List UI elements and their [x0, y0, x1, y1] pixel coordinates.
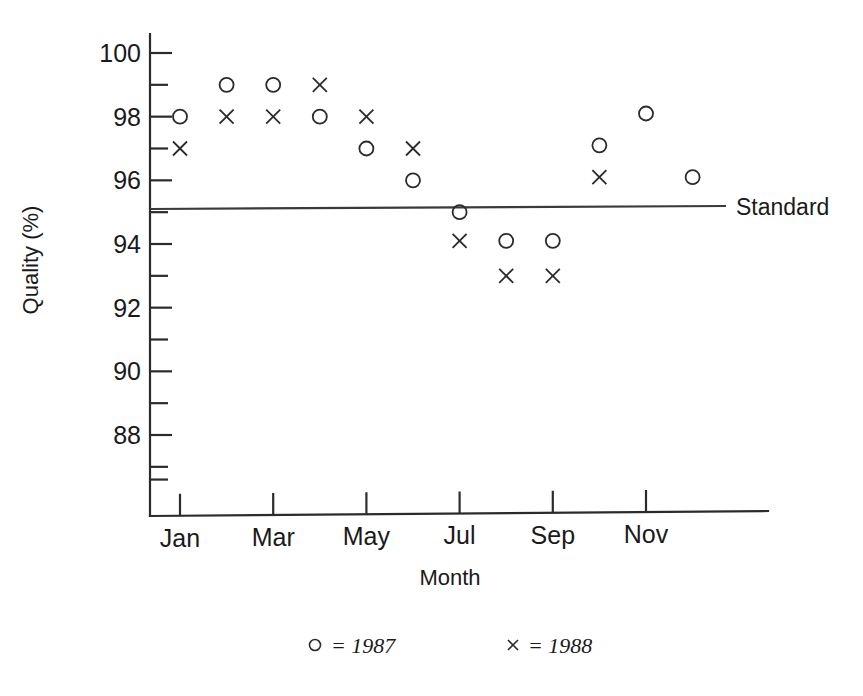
chart-legend: = 1987 = 1988	[310, 633, 593, 658]
data-point-circle	[499, 234, 513, 248]
data-point-circle	[592, 138, 606, 152]
data-point-circle	[546, 234, 560, 248]
data-point-cross	[592, 170, 606, 184]
x-axis-tick-labels: JanMarMayJulSepNov	[160, 520, 669, 552]
y-axis-tick-labels: 889092949698100	[99, 39, 141, 449]
data-point-cross	[499, 269, 513, 283]
x-tick-label: May	[343, 522, 391, 550]
standard-line-label: Standard	[736, 194, 829, 220]
data-point-circle	[686, 170, 700, 184]
standard-reference-line	[150, 206, 726, 209]
data-point-cross	[546, 269, 560, 283]
y-axis-title: Quality (%)	[18, 206, 43, 315]
data-point-cross	[266, 110, 280, 124]
data-point-cross	[406, 142, 420, 156]
data-point-circle	[173, 110, 187, 124]
chart-canvas: 889092949698100 Quality (%) JanMarMayJul…	[0, 0, 863, 696]
data-point-cross	[313, 78, 327, 92]
y-axis: 889092949698100 Quality (%)	[18, 34, 172, 516]
data-point-circle	[266, 78, 280, 92]
circle-marker-icon	[310, 640, 321, 651]
y-tick-label: 94	[113, 230, 141, 258]
data-point-circle	[406, 173, 420, 187]
data-point-circle	[313, 110, 327, 124]
data-point-circle	[359, 142, 373, 156]
x-tick-label: Sep	[531, 521, 575, 549]
y-tick-label: 90	[113, 357, 141, 385]
y-tick-label: 96	[113, 166, 141, 194]
y-axis-ticks	[150, 53, 172, 480]
legend-label-1987: = 1987	[331, 633, 396, 658]
data-point-circle	[639, 106, 653, 120]
data-point-cross	[173, 142, 187, 156]
x-axis: JanMarMayJulSepNov Month	[150, 490, 768, 590]
standard-reference-line-group: Standard	[150, 194, 829, 220]
data-point-circle	[220, 78, 234, 92]
cross-marker-icon	[508, 640, 518, 650]
x-tick-label: Jan	[160, 524, 200, 552]
legend-entry-1987: = 1987	[310, 633, 397, 658]
y-tick-label: 100	[99, 39, 141, 67]
y-tick-label: 98	[113, 103, 141, 131]
series-1988-markers	[173, 78, 606, 283]
quality-scatter-chart: 889092949698100 Quality (%) JanMarMayJul…	[0, 0, 863, 696]
y-tick-label: 92	[113, 294, 141, 322]
x-axis-title: Month	[419, 565, 480, 590]
x-tick-label: Jul	[444, 521, 476, 549]
y-tick-label: 88	[113, 421, 141, 449]
legend-entry-1988: = 1988	[508, 633, 592, 658]
data-point-cross	[359, 110, 373, 124]
series-1987-markers	[173, 78, 700, 248]
x-tick-label: Mar	[252, 523, 295, 551]
x-tick-label: Nov	[624, 520, 669, 548]
legend-label-1988: = 1988	[528, 633, 592, 658]
data-point-cross	[220, 110, 234, 124]
data-point-cross	[453, 234, 467, 248]
